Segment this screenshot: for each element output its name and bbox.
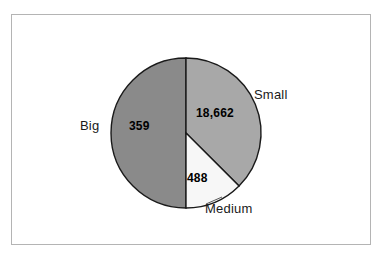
pie-slice-big[interactable] — [111, 58, 186, 208]
pie-value-small: 18,662 — [196, 106, 234, 120]
pie-chart-plot-area: Small Big Medium 18,662 359 488 — [0, 0, 382, 258]
pie-label-small: Small — [254, 87, 288, 102]
pie-chart-graphic — [0, 0, 382, 258]
pie-value-medium: 488 — [187, 171, 208, 185]
pie-value-big: 359 — [129, 119, 150, 133]
pie-label-medium: Medium — [205, 201, 252, 216]
pie-label-big: Big — [80, 118, 99, 133]
